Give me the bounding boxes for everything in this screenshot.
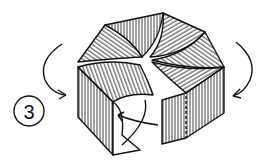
- hexagonal-box: [78, 13, 224, 155]
- origami-diagram: [0, 0, 270, 164]
- curved-arrow-right: [233, 42, 252, 98]
- curved-arrow-inner: [118, 112, 158, 125]
- curved-arrow-left: [43, 44, 66, 99]
- step-number: 3: [14, 97, 44, 127]
